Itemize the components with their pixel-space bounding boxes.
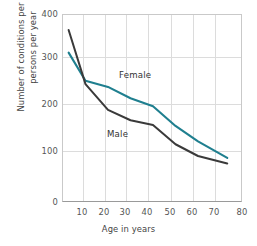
- y-tick-label-300: 300: [30, 52, 58, 62]
- x-tick-label-40: 40: [136, 207, 158, 217]
- x-tick-label-50: 50: [159, 207, 181, 217]
- x-tick-label-20: 20: [93, 207, 115, 217]
- chart-figure: Number of conditions per 100 persons per…: [0, 0, 257, 246]
- data-lines: [63, 15, 243, 203]
- series-label-female: Female: [119, 70, 151, 80]
- series-label-male: Male: [107, 129, 128, 139]
- x-tick-label-70: 70: [203, 207, 225, 217]
- x-axis-title: Age in years: [0, 224, 257, 234]
- x-tick-label-60: 60: [181, 207, 203, 217]
- plot-area: Female Male: [62, 14, 242, 202]
- y-tick-label-200: 200: [30, 99, 58, 109]
- x-tick-label-10: 10: [71, 207, 93, 217]
- y-tick-label-100: 100: [30, 146, 58, 156]
- line-series-female: [69, 53, 228, 158]
- x-tick-label-80: 80: [231, 207, 253, 217]
- x-tick-label-30: 30: [114, 207, 136, 217]
- y-tick-label-0: 0: [30, 197, 58, 207]
- y-tick-label-400: 400: [30, 9, 58, 19]
- y-axis-title: Number of conditions per 100 persons per…: [16, 0, 39, 133]
